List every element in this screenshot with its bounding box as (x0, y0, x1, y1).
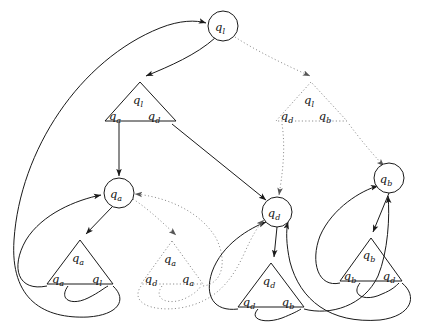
rule-left-label-l-db: qd (281, 109, 294, 125)
edge-qb-to-rule-b-bd (373, 193, 389, 232)
rule-left-label-a-al: qa (52, 272, 64, 288)
rule-apex-label-l-db: ql (304, 93, 314, 109)
edge-rule-l-db-right-to-qb (349, 124, 384, 166)
rule-apex-label-a-al: qa (72, 251, 84, 267)
rule-apex-label-b-bd: qb (363, 248, 376, 264)
edge-ql-to-rule-l-db (235, 37, 310, 76)
edge-rule-a-al-left-to-qa (18, 195, 101, 287)
rule-right-label-d-db: qb (282, 295, 295, 311)
rule-right-label-l-ad: qd (148, 109, 161, 125)
diagram-canvas: ql qa qd qb ql qa qd ql qd qb qa qa ql (0, 0, 426, 327)
rule-left-label-a-da: qd (145, 272, 158, 288)
rule-right-label-a-da: qa (182, 272, 194, 288)
rule-left-label-d-db: qd (243, 295, 256, 311)
rule-right-label-a-al: ql (92, 272, 102, 288)
rule-right-label-l-db: qb (319, 109, 332, 125)
rule-right-label-b-bd: qd (383, 269, 396, 285)
edge-qd-to-rule-d-db (274, 227, 277, 257)
edge-rule-a-al-inner-return (65, 286, 108, 302)
edge-rule-l-ad-right-to-qd (172, 124, 266, 200)
rule-apex-label-a-da: qa (164, 252, 176, 268)
edge-qa-to-rule-a-al (86, 207, 112, 234)
graph-svg: ql qa qd qb ql qa qd ql qd qb qa qa ql (0, 0, 426, 327)
edge-rule-d-db-right-to-qb (304, 196, 389, 311)
edge-rule-a-da-inner-return (159, 286, 201, 302)
rule-left-label-b-bd: qb (344, 269, 357, 285)
edge-ql-to-rule-l-ad (146, 38, 215, 76)
edge-rule-a-al-right-to-ql (14, 21, 206, 317)
edge-rule-d-db-inner-return (255, 309, 301, 321)
rule-apex-label-l-ad: ql (133, 93, 143, 109)
edge-rule-l-db-left-to-qd (279, 124, 284, 195)
rule-left-label-l-ad: qa (109, 109, 121, 125)
rule-apex-label-d-db: qd (263, 274, 276, 290)
edge-rule-d-db-left-to-qd (209, 222, 266, 309)
edge-qa-to-rule-a-da (133, 199, 176, 235)
